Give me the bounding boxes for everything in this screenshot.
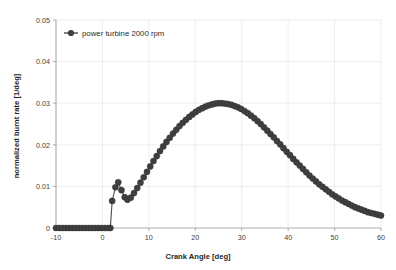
y-axis-tick-label: 0.01 (36, 182, 50, 191)
y-axis-tick-label: 0.05 (36, 16, 50, 25)
x-axis-tick-label: 40 (284, 233, 292, 242)
data-point-marker (109, 198, 115, 204)
data-point-marker (107, 225, 113, 231)
x-axis-tick-label: 30 (238, 233, 246, 242)
y-axis-title: normalized burnt rate [1/deg] (12, 73, 21, 178)
data-point-marker (378, 212, 384, 218)
data-point-marker (141, 174, 147, 180)
y-axis-tick-label: 0.02 (36, 141, 50, 150)
data-point-marker (134, 185, 140, 191)
x-axis-tick-label: 20 (191, 233, 199, 242)
y-axis-tick-label: 0.03 (36, 99, 50, 108)
data-point-marker (144, 169, 150, 175)
data-point-marker (118, 187, 124, 193)
data-point-marker (137, 180, 143, 186)
x-axis-tick-label: 10 (145, 233, 153, 242)
x-axis-tick-label: 0 (100, 233, 104, 242)
x-axis-tick-label: 50 (331, 233, 339, 242)
data-point-marker (115, 179, 121, 185)
data-point-marker (147, 163, 153, 169)
x-axis-title: Crank Angle [deg] (165, 252, 231, 261)
x-axis-tick-label: 60 (377, 233, 385, 242)
burnt-rate-line-chart: -100102030405060 00.010.020.030.040.05 p… (0, 0, 396, 270)
x-axis-tick-label: -10 (51, 233, 61, 242)
legend-marker-swatch (68, 30, 74, 36)
y-axis-tick-label: 0.04 (36, 57, 50, 66)
y-axis-tick-label: 0 (46, 224, 50, 233)
chart-container: -100102030405060 00.010.020.030.040.05 p… (0, 0, 396, 270)
legend-entry-label: power turbine 2000 rpm (82, 29, 164, 38)
